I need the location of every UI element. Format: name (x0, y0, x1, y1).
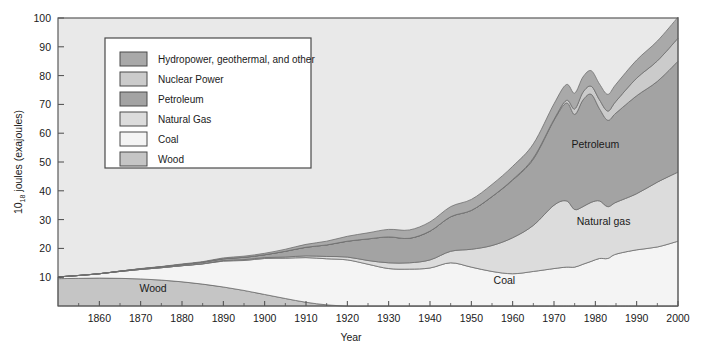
x-axis-title: Year (340, 331, 362, 343)
legend-label: Natural Gas (158, 114, 211, 125)
x-tick-label: 1890 (212, 312, 236, 324)
series-label: Wood (139, 282, 166, 294)
x-tick-label: 1880 (170, 312, 194, 324)
series-label: Coal (494, 274, 516, 286)
legend-swatch (120, 52, 147, 66)
x-tick-label: 1860 (88, 312, 112, 324)
series-label: Petroleum (571, 138, 619, 150)
y-tick-label: 20 (39, 242, 51, 254)
energy-consumption-stacked-area-chart: WoodCoalNatural gasPetroleum 18601870188… (0, 0, 701, 360)
x-tick-label: 1930 (377, 312, 401, 324)
legend-label: Petroleum (158, 94, 204, 105)
x-tick-label: 1990 (625, 312, 649, 324)
legend-label: Wood (158, 154, 184, 165)
series-label: Natural gas (577, 215, 631, 227)
y-tick-label: 30 (39, 214, 51, 226)
y-tick-label: 90 (39, 41, 51, 53)
y-axis-title-base: 10 (12, 202, 24, 214)
legend-label: Coal (158, 134, 179, 145)
y-axis-title-rest: joules (exajoules) (12, 110, 24, 195)
y-tick-label: 100 (33, 12, 51, 24)
y-axis-title-subscript: 18 (19, 194, 26, 202)
y-tick-label: 70 (39, 98, 51, 110)
legend-swatch (120, 112, 147, 126)
x-tick-label: 1950 (460, 312, 484, 324)
x-tick-label: 1940 (418, 312, 442, 324)
legend-swatch (120, 72, 147, 86)
legend-swatch (120, 92, 147, 106)
y-tick-label: 10 (39, 271, 51, 283)
legend-label: Hydropower, geothermal, and other (158, 54, 315, 65)
chart-stage: WoodCoalNatural gasPetroleum 18601870188… (0, 0, 701, 360)
x-tick-label: 1900 (253, 312, 277, 324)
x-tick-label: 2000 (666, 312, 690, 324)
y-tick-label: 50 (39, 156, 51, 168)
chart-legend: Hydropower, geothermal, and otherNuclear… (105, 38, 315, 168)
x-tick-label: 1980 (584, 312, 608, 324)
x-tick-label: 1920 (336, 312, 360, 324)
y-tick-label: 80 (39, 70, 51, 82)
x-tick-label: 1910 (294, 312, 318, 324)
legend-label: Nuclear Power (158, 74, 224, 85)
x-tick-label: 1960 (501, 312, 525, 324)
y-tick-label: 60 (39, 127, 51, 139)
x-tick-label: 1870 (129, 312, 153, 324)
legend-swatch (120, 132, 147, 146)
x-tick-label: 1970 (542, 312, 566, 324)
legend-swatch (120, 152, 147, 166)
y-tick-label: 40 (39, 185, 51, 197)
